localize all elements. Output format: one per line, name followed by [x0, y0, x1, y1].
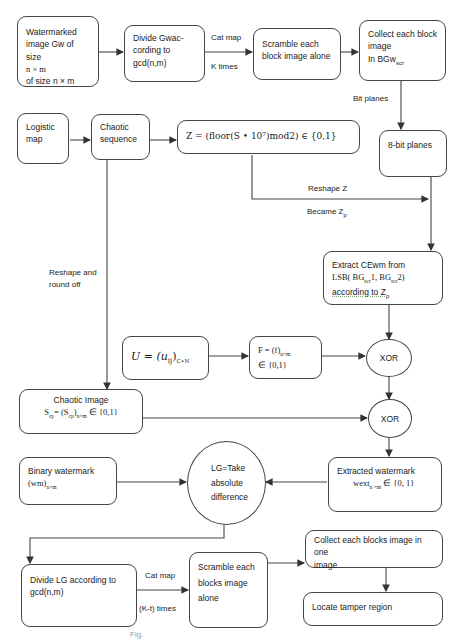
node-text: Watermarked	[26, 26, 90, 38]
node-text: (wm)n×m	[28, 477, 108, 492]
node-text: difference	[211, 490, 248, 505]
node-text: blocks image	[198, 576, 259, 592]
node-text: Divide LG according to	[30, 574, 128, 586]
node-text: Scramble each	[262, 38, 332, 50]
node-text: LG=Take	[211, 461, 248, 476]
node-text: Locate tamper region	[312, 602, 392, 612]
node-text: Scramble each	[198, 560, 259, 576]
node-text: F = (f)n×m	[258, 344, 313, 359]
edge-label-cat-map: Cat map	[211, 33, 241, 42]
node-text: image Gw of size	[26, 38, 90, 63]
z-formula-text: Z = (floor(S • 10⁷)mod2) ∈ {0,1}	[186, 131, 337, 141]
scramble-block-node: Scramble each block image alone	[253, 28, 341, 80]
node-title: Chaotic Image	[28, 394, 134, 406]
lsb-text: 2)	[398, 272, 405, 282]
u-matrix-node: U = (uij)C∗N	[122, 336, 209, 380]
node-text: map	[26, 133, 60, 145]
binary-watermark-node: Binary watermark (wm)n×m	[19, 457, 117, 505]
extracted-watermark-node: Extracted watermark wextn ×m ∈ {0, 1}	[328, 457, 442, 512]
wext-text: wext	[353, 478, 370, 488]
chaotic-sequence-node: Chaotic sequence	[91, 114, 150, 160]
node-text: Extracted watermark	[337, 465, 433, 477]
node-text: Extract CEwm from	[332, 259, 434, 271]
node-text: image	[314, 559, 434, 571]
subscript: n×m	[280, 351, 290, 357]
edge-label-k-times: K times	[211, 62, 238, 71]
node-text: Logistic	[26, 121, 60, 133]
divide-lg-node: Divide LG according to gcd(n,m)	[21, 564, 137, 627]
subscript: n ×m	[370, 484, 382, 490]
bit-planes-node: 8-bit planes	[379, 130, 447, 177]
collect-blocks-node: Collect each blocks image in one image	[305, 530, 443, 568]
edge-label-k-t-times: (K-t) times	[139, 604, 176, 613]
subscript: n×m	[77, 413, 87, 419]
node-text: alone	[198, 591, 259, 607]
extract-cewm-node: Extract CEwm from LSB( BGscr1, BGscr2) a…	[323, 251, 443, 305]
lg-difference-node: LG=Take absolute difference	[187, 441, 266, 525]
node-text: according to Zp	[332, 286, 434, 300]
lsb-text: 1, BG	[371, 272, 391, 282]
node-text: cording to	[133, 44, 196, 56]
z-formula-node: Z = (floor(S • 10⁷)mod2) ∈ {0,1}	[177, 120, 360, 154]
label-line: round off	[49, 279, 97, 291]
wext-text: ∈ {0, 1}	[381, 478, 414, 488]
node-text: ∈ {0,1}	[258, 359, 313, 371]
logistic-map-node: Logistic map	[17, 113, 69, 164]
node-text: Binary watermark	[28, 465, 108, 477]
according-text: according to Z	[332, 287, 386, 297]
locate-tamper-node: Locate tamper region	[303, 592, 443, 626]
xor-text: XOR	[380, 353, 398, 363]
collect-block-node: Collect each block image In BGwscr	[359, 20, 446, 81]
became-text: Became Z	[307, 207, 343, 216]
subscript: p	[343, 212, 346, 218]
node-text: Collect each blocks image in one	[314, 534, 434, 559]
node-text: absolute	[211, 476, 248, 491]
xor-text: XOR	[381, 414, 399, 424]
chaotic-image-node: Chaotic Image Scp= (Scp)n×m ∈ {0,1}	[19, 389, 143, 434]
node-text: Collect each block	[368, 28, 437, 40]
edge-label-bit-planes: Bit planes	[353, 94, 388, 103]
watermarked-image-node: Watermarked image Gw of size n × m of si…	[17, 16, 99, 87]
subscript: scr	[396, 59, 404, 65]
node-text: sequence	[100, 133, 141, 145]
edge-label-reshape-round: Reshape and round off	[49, 267, 97, 291]
u-text: U = (u	[131, 350, 168, 363]
node-text: LSB( BGscr1, BGscr2)	[332, 271, 434, 286]
node-text: Chaotic	[100, 121, 141, 133]
edge-label-became-zp: Became Zp	[307, 207, 347, 218]
node-text: wextn ×m ∈ {0, 1}	[337, 477, 433, 492]
subscript: p	[386, 293, 389, 299]
node-text: of size n × m	[26, 75, 90, 87]
node-text: image	[368, 40, 437, 52]
formula: = (S	[54, 407, 68, 417]
subscript: C∗N	[177, 358, 190, 364]
lg-text: LG=Take absolute difference	[211, 461, 248, 506]
bgw-label: In BGw	[368, 54, 396, 64]
node-text: 8-bit planes	[388, 140, 432, 150]
wm-text: (wm)	[28, 478, 46, 488]
node-text: Scp= (Scp)n×m ∈ {0,1}	[28, 406, 134, 421]
scramble-blocks-node: Scramble each blocks image alone	[189, 552, 268, 628]
node-text: In BGwscr	[368, 53, 437, 67]
edge-label-reshape-z: Reshape Z	[308, 184, 347, 193]
subscript: n×m	[46, 484, 56, 490]
edge-label-cat-map-bottom: Cat map	[145, 571, 175, 580]
formula: ∈ {0,1}	[87, 407, 118, 417]
node-text: gcd(n,m)	[133, 57, 196, 69]
xor-node-2: XOR	[368, 399, 412, 438]
lsb-text: LSB( BG	[332, 272, 364, 282]
f-text: F = (f)	[258, 345, 280, 355]
node-text: n × m	[26, 63, 90, 75]
figure-caption: Fig.	[130, 630, 143, 639]
label-line: Reshape and	[49, 267, 97, 279]
xor-node-1: XOR	[366, 339, 412, 377]
f-matrix-node: F = (f)n×m ∈ {0,1}	[249, 336, 322, 379]
node-text: block image alone	[262, 50, 332, 62]
node-text: gcd(n,m)	[30, 586, 128, 598]
node-text: Divide Gwac-	[133, 32, 196, 44]
divide-gw-node: Divide Gwac- cording to gcd(n,m)	[124, 25, 205, 82]
